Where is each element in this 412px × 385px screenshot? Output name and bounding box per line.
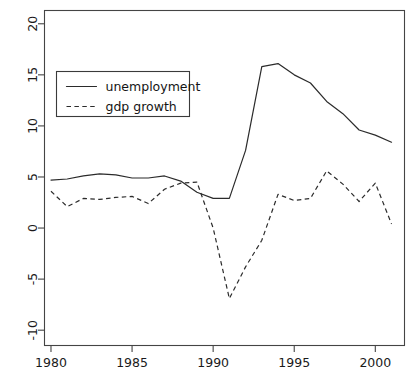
x-tick-label-1995: 1995 — [278, 355, 310, 370]
x-tick-label-2000: 2000 — [359, 355, 391, 370]
y-tick-label-5: 5 — [25, 173, 40, 181]
y-tick-label--5: -5 — [25, 273, 40, 285]
plot-frame — [45, 11, 405, 346]
y-tick-label--10: -10 — [25, 320, 40, 340]
chart-legend: unemploymentgdp growth — [57, 72, 201, 117]
x-tick-label-1980: 1980 — [35, 355, 67, 370]
y-axis-tick-labels: 20151050-5-10 — [25, 16, 40, 341]
y-tick-label-15: 15 — [25, 67, 40, 83]
legend-label-gdp-growth: gdp growth — [106, 99, 177, 114]
line-chart: 19801985199019952000 20151050-5-10 unemp… — [0, 0, 412, 385]
x-tick-label-1990: 1990 — [197, 355, 229, 370]
x-axis-ticks — [51, 346, 375, 353]
plot-border — [45, 11, 405, 346]
y-tick-label-20: 20 — [25, 16, 40, 32]
x-axis-tick-labels: 19801985199019952000 — [35, 355, 391, 370]
legend-label-unemployment: unemployment — [106, 79, 201, 94]
series-line-gdp-growth — [51, 171, 392, 299]
y-tick-label-10: 10 — [25, 118, 40, 134]
y-tick-label-0: 0 — [25, 224, 40, 232]
x-tick-label-1985: 1985 — [116, 355, 148, 370]
chart-figure: 19801985199019952000 20151050-5-10 unemp… — [0, 0, 412, 385]
